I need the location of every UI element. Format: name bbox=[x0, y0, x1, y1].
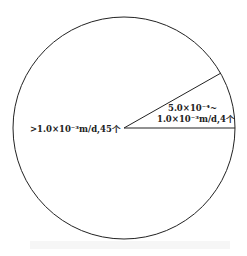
slice-label-small-line2: 1.0×10⁻³m/d,4个 bbox=[157, 114, 235, 124]
figure-caption bbox=[30, 241, 230, 249]
slice-label-small-line1: 5.0×10⁻⁴~ bbox=[168, 103, 217, 113]
slice-label-large: >1.0×10⁻³m/d,45个 bbox=[30, 124, 121, 134]
